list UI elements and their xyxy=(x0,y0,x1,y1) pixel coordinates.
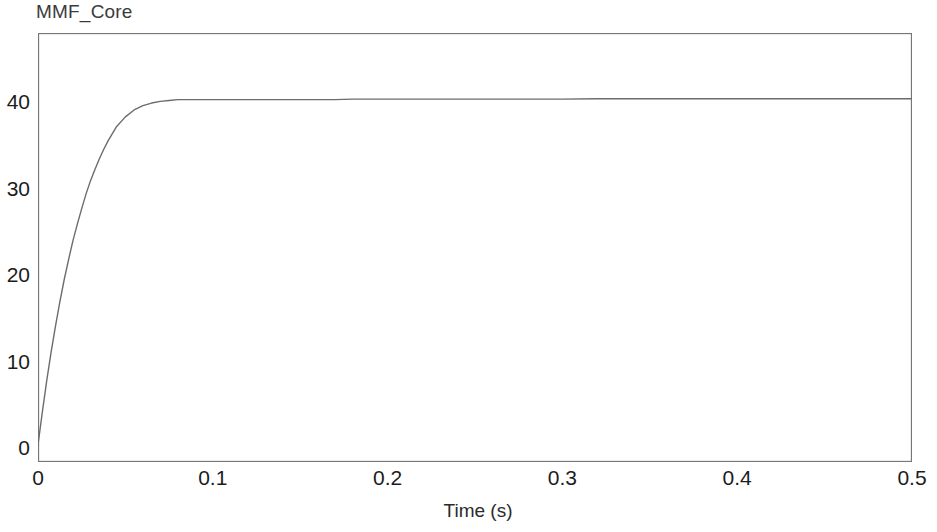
data-series-line xyxy=(38,99,912,445)
plot-svg xyxy=(38,33,912,462)
plot-area xyxy=(38,33,912,462)
y-tick-label: 20 xyxy=(7,263,30,287)
y-tick-label: 0 xyxy=(18,436,30,460)
y-tick-label: 30 xyxy=(7,177,30,201)
x-axis-title: Time (s) xyxy=(444,500,513,522)
plot-border xyxy=(39,34,912,462)
y-axis-tick-labels: 010203040 xyxy=(0,0,30,532)
y-tick-label: 10 xyxy=(7,350,30,374)
chart-page: MMF_Core 010203040 00.10.20.30.40.5 Time… xyxy=(0,0,937,532)
chart-title: MMF_Core xyxy=(36,1,133,23)
x-tick-label: 0.3 xyxy=(548,466,577,490)
x-tick-label: 0.1 xyxy=(198,466,227,490)
x-tick-label: 0.2 xyxy=(373,466,402,490)
x-tick-label: 0.4 xyxy=(723,466,752,490)
x-tick-label: 0.5 xyxy=(897,466,926,490)
x-tick-label: 0 xyxy=(32,466,44,490)
y-tick-label: 40 xyxy=(7,90,30,114)
